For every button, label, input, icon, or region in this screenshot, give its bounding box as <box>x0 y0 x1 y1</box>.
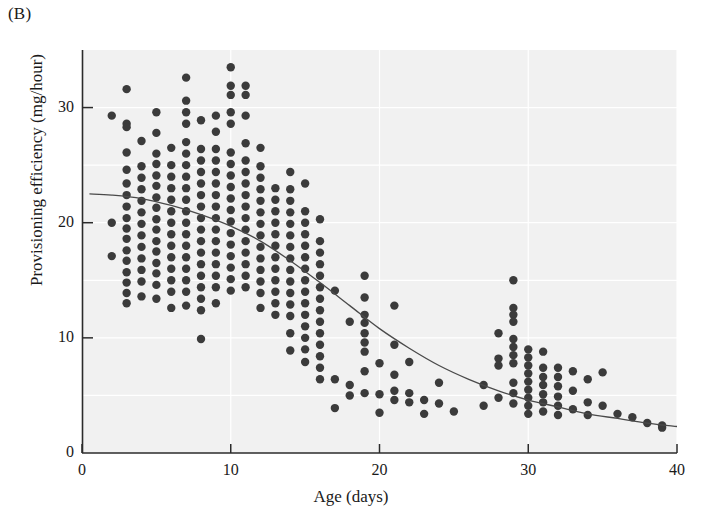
data-point <box>360 347 368 355</box>
data-point <box>524 369 532 377</box>
data-point <box>241 168 249 176</box>
data-point <box>182 219 190 227</box>
data-point <box>152 237 160 245</box>
data-point <box>256 289 264 297</box>
data-point <box>301 276 309 284</box>
data-point <box>584 398 592 406</box>
figure-panel-b: (B) Provisioning efficiency (mg/hour) Ag… <box>0 0 702 525</box>
data-point <box>227 194 235 202</box>
scatter-plot <box>0 0 702 525</box>
data-point <box>241 271 249 279</box>
data-point <box>316 237 324 245</box>
data-point <box>390 371 398 379</box>
data-point <box>227 160 235 168</box>
data-point <box>137 266 145 274</box>
data-point <box>241 191 249 199</box>
data-point <box>301 358 309 366</box>
data-point <box>360 389 368 397</box>
y-tick-label: 20 <box>40 213 74 231</box>
data-point <box>167 288 175 296</box>
data-point <box>509 359 517 367</box>
data-point <box>137 162 145 170</box>
data-point <box>286 266 294 274</box>
data-point <box>212 168 220 176</box>
data-point <box>122 289 130 297</box>
x-tick-label: 40 <box>657 461 697 479</box>
data-point <box>435 399 443 407</box>
data-point <box>152 281 160 289</box>
data-point <box>241 139 249 147</box>
data-point <box>227 240 235 248</box>
data-point <box>301 179 309 187</box>
data-point <box>331 375 339 383</box>
data-point <box>122 179 130 187</box>
data-point <box>301 288 309 296</box>
data-point <box>256 243 264 251</box>
data-point <box>360 367 368 375</box>
data-point <box>271 265 279 273</box>
data-point <box>256 277 264 285</box>
data-point <box>286 277 294 285</box>
data-point <box>137 277 145 285</box>
data-point <box>227 91 235 99</box>
data-point <box>301 334 309 342</box>
data-point <box>375 359 383 367</box>
data-point <box>167 219 175 227</box>
data-point <box>108 252 116 260</box>
data-point <box>360 338 368 346</box>
data-point <box>256 174 264 182</box>
data-point <box>524 353 532 361</box>
data-point <box>182 96 190 104</box>
data-point <box>241 81 249 89</box>
data-point <box>375 390 383 398</box>
data-point <box>152 269 160 277</box>
data-point <box>256 220 264 228</box>
data-point <box>286 197 294 205</box>
data-point <box>241 260 249 268</box>
data-point <box>524 402 532 410</box>
data-point <box>316 375 324 383</box>
data-point <box>152 259 160 267</box>
data-point <box>227 81 235 89</box>
data-point <box>598 402 606 410</box>
data-point <box>539 407 547 415</box>
data-point <box>167 207 175 215</box>
x-tick-label: 20 <box>360 461 400 479</box>
data-point <box>152 149 160 157</box>
data-point <box>212 237 220 245</box>
data-point <box>227 286 235 294</box>
data-point <box>122 202 130 210</box>
data-point <box>554 411 562 419</box>
data-point <box>167 230 175 238</box>
data-point <box>227 263 235 271</box>
data-point <box>197 116 205 124</box>
data-point <box>152 108 160 116</box>
data-point <box>286 289 294 297</box>
data-point <box>212 271 220 279</box>
data-point <box>152 171 160 179</box>
data-point <box>539 390 547 398</box>
data-point <box>301 322 309 330</box>
data-point <box>524 410 532 418</box>
data-point <box>137 174 145 182</box>
data-point <box>286 231 294 239</box>
data-point <box>152 182 160 190</box>
data-point <box>554 364 562 372</box>
data-point <box>122 85 130 93</box>
data-point <box>301 230 309 238</box>
data-point <box>227 183 235 191</box>
data-point <box>122 148 130 156</box>
data-point <box>122 246 130 254</box>
data-point <box>509 351 517 359</box>
data-point <box>241 237 249 245</box>
data-point <box>212 283 220 291</box>
data-point <box>316 329 324 337</box>
data-point <box>271 276 279 284</box>
data-point <box>137 208 145 216</box>
data-point <box>301 242 309 250</box>
data-point <box>152 204 160 212</box>
data-point <box>346 318 354 326</box>
data-point <box>152 129 160 137</box>
data-point <box>182 161 190 169</box>
data-point <box>197 248 205 256</box>
